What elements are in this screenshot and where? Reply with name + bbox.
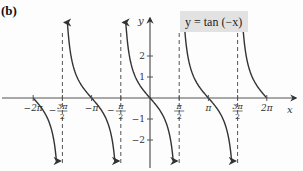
part-label: (b) [1, 3, 17, 18]
axes [2, 18, 296, 168]
x-axis-label: x [287, 104, 293, 115]
x-tick-label: − [107, 105, 115, 115]
chart-root: −2π−3π2−π−π2π2π3π22π21−1−2 (b) y = tan (… [0, 0, 303, 171]
equation-label: y = tan (−x) [185, 15, 242, 29]
x-tick-label: 2 [235, 112, 240, 121]
x-tick-label: π [176, 102, 183, 111]
tangent-branch [240, 22, 267, 98]
tan-neg-x-plot: −2π−3π2−π−π2π2π3π22π21−1−2 (b) y = tan (… [0, 0, 303, 171]
tangent-branch [65, 22, 119, 161]
x-tick-label: 3π [57, 102, 68, 111]
x-tick-label: 2π [260, 103, 274, 113]
y-tick-label: −1 [132, 114, 145, 124]
tangent-branch [181, 22, 235, 161]
x-tick-label: 2 [60, 112, 65, 121]
x-tick-label: 2 [118, 112, 123, 121]
y-tick-label: −2 [132, 135, 145, 145]
y-axis-label: y [137, 15, 144, 26]
x-tick-label: 2 [177, 112, 182, 121]
x-tick-label: 3π [232, 102, 243, 111]
y-tick-label: 1 [139, 72, 145, 82]
x-tick-label: − [49, 105, 57, 115]
x-tick-label: −2π [24, 103, 44, 113]
x-tick-label: π [117, 102, 124, 111]
x-tick-label: π [204, 103, 212, 113]
x-tick-label: −π [85, 103, 100, 113]
y-tick-label: 2 [139, 51, 145, 61]
